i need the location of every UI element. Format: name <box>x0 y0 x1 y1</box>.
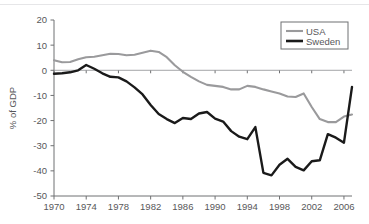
x-axis-tick-labels: 1970197419781982198619901994199820022006 <box>43 201 354 212</box>
x-tick-label: 1994 <box>237 201 258 212</box>
chart-legend: USA Sweden <box>281 22 348 49</box>
x-tick-label: 1998 <box>269 201 290 212</box>
x-tick-marks <box>54 70 344 199</box>
x-tick-label: 1986 <box>172 201 193 212</box>
y-tick-label: -40 <box>33 165 47 176</box>
x-tick-label: 1978 <box>108 201 129 212</box>
data-series-group <box>54 51 352 176</box>
x-tick-label: 1982 <box>140 201 161 212</box>
line-chart: 20100-10-20-30-40-50 1970197419781982198… <box>0 0 369 224</box>
y-tick-marks <box>51 20 55 196</box>
y-tick-label: 0 <box>42 65 47 76</box>
chart-figure: 20100-10-20-30-40-50 1970197419781982198… <box>0 0 369 224</box>
x-tick-label: 2006 <box>333 201 354 212</box>
y-tick-label: -50 <box>33 190 47 201</box>
x-tick-label: 1974 <box>76 201 97 212</box>
y-tick-label: -10 <box>33 90 47 101</box>
x-tick-label: 2002 <box>301 201 322 212</box>
x-tick-label: 1990 <box>205 201 226 212</box>
legend-label-sweden: Sweden <box>306 36 340 47</box>
y-tick-label: -20 <box>33 115 47 126</box>
series-line-usa <box>54 51 352 122</box>
y-axis-tick-labels: 20100-10-20-30-40-50 <box>33 14 47 201</box>
y-tick-label: -30 <box>33 140 47 151</box>
y-axis-title: % of GDP <box>7 87 18 129</box>
series-line-sweden <box>54 65 352 175</box>
x-tick-label: 1970 <box>43 201 64 212</box>
y-tick-label: 10 <box>36 40 47 51</box>
y-tick-label: 20 <box>36 14 47 25</box>
